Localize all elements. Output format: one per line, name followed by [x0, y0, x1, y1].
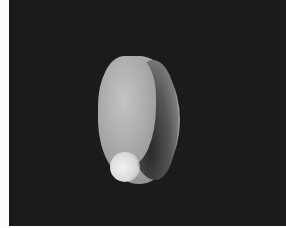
shell-columella: [110, 152, 140, 182]
shell-body-whorl: [98, 56, 156, 166]
shell-photo: An oval, glossy grey-white gastropod she…: [9, 0, 286, 226]
shell: [98, 56, 180, 184]
